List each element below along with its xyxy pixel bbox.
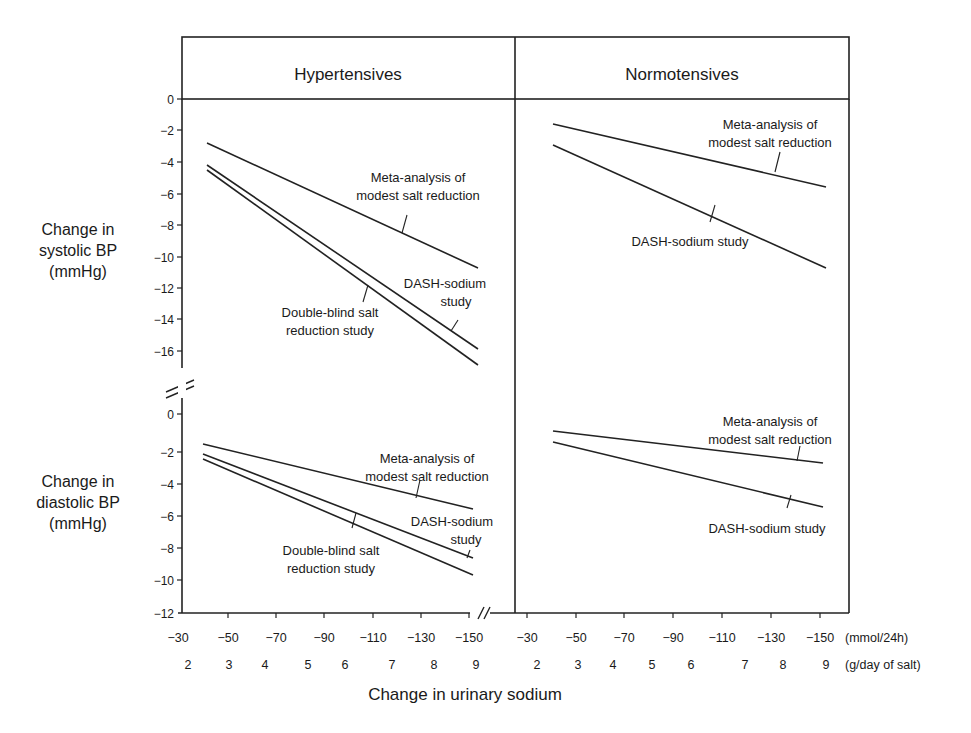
xtick-salt: 2 <box>185 658 192 672</box>
ann-norm-dia-meta-2: modest salt reduction <box>708 432 832 447</box>
xtick-salt: 9 <box>473 658 480 672</box>
xtick-salt: 3 <box>575 658 582 672</box>
ann-htn-sys-meta-1: Meta-analysis of <box>371 170 466 185</box>
ann-htn-dia-meta-2: modest salt reduction <box>365 469 489 484</box>
xtick-salt: 4 <box>610 658 617 672</box>
xtick-mmol: −50 <box>565 631 586 645</box>
ytick: −16 <box>154 345 175 359</box>
xtick-mmol: −130 <box>407 631 435 645</box>
xtick-mmol: −150 <box>806 631 834 645</box>
ylabel-diastolic-2: diastolic BP <box>36 494 120 511</box>
ytick: −2 <box>160 124 174 138</box>
ann-htn-sys-db-2: reduction study <box>286 323 375 338</box>
xtick-mmol: −70 <box>265 631 286 645</box>
xtick-salt: 7 <box>742 658 749 672</box>
xtick-salt: 4 <box>262 658 269 672</box>
ann-norm-sys-dash: DASH-sodium study <box>631 234 749 249</box>
axis-break-icon <box>166 380 490 619</box>
xtick-salt: 5 <box>305 658 312 672</box>
ann-htn-sys-dash-1: DASH-sodium <box>404 276 486 291</box>
xtick-mmol: −130 <box>757 631 785 645</box>
xtick-mmol: −110 <box>708 631 735 645</box>
ann-norm-dia-dash: DASH-sodium study <box>708 521 826 536</box>
ytick: −14 <box>154 313 175 327</box>
ylabel-systolic-1: Change in <box>42 221 115 238</box>
ytick: 0 <box>167 93 174 107</box>
line-norm-sys-meta <box>553 124 826 187</box>
ann-htn-sys-dash-2: study <box>440 294 472 309</box>
xtick-mmol: −90 <box>662 631 683 645</box>
bp-sodium-chart: Hypertensives Normotensives Change in sy… <box>0 0 971 733</box>
ylabel-systolic-3: (mmHg) <box>49 263 107 280</box>
ytick: −8 <box>160 542 174 556</box>
ytick: −8 <box>160 219 174 233</box>
xtick-mmol: −90 <box>313 631 334 645</box>
ytick: −10 <box>154 574 175 588</box>
ann-htn-dia-db-1: Double-blind salt <box>283 543 380 558</box>
ylabel-diastolic-3: (mmHg) <box>49 515 107 532</box>
xtick-mmol: −30 <box>516 631 537 645</box>
ann-htn-dia-dash-2: study <box>450 532 482 547</box>
ylabel-diastolic-1: Change in <box>42 473 115 490</box>
xtick-mmol: −110 <box>359 631 386 645</box>
xtick-salt: 6 <box>688 658 695 672</box>
xtick-salt: 9 <box>823 658 830 672</box>
xunit-mmol: (mmol/24h) <box>845 631 908 645</box>
ytick: −12 <box>154 607 175 621</box>
xtick-salt: 6 <box>342 658 349 672</box>
ann-htn-sys-db-1: Double-blind salt <box>282 305 379 320</box>
xtick-mmol: −30 <box>167 631 188 645</box>
ytick: 0 <box>167 408 174 422</box>
ytick: −6 <box>160 510 174 524</box>
ytick: −4 <box>160 478 174 492</box>
ann-htn-dia-dash-1: DASH-sodium <box>411 514 493 529</box>
xtick-mmol: −50 <box>217 631 238 645</box>
ytick: −10 <box>154 251 175 265</box>
xtick-mmol: −150 <box>455 631 483 645</box>
xtick-salt: 8 <box>431 658 438 672</box>
ann-norm-sys-meta-1: Meta-analysis of <box>723 117 818 132</box>
xtick-mmol: −70 <box>613 631 634 645</box>
line-htn-sys-meta <box>207 143 478 268</box>
xtick-salt: 2 <box>534 658 541 672</box>
xlabel: Change in urinary sodium <box>368 685 562 704</box>
ytick: −12 <box>154 282 175 296</box>
xtick-salt: 7 <box>389 658 396 672</box>
ytick: −2 <box>160 446 174 460</box>
xtick-salt: 5 <box>649 658 656 672</box>
ytick: −6 <box>160 188 174 202</box>
ann-norm-sys-meta-2: modest salt reduction <box>708 135 832 150</box>
panel-title-normotensives: Normotensives <box>625 65 738 84</box>
xtick-salt: 3 <box>226 658 233 672</box>
panel-title-hypertensives: Hypertensives <box>294 65 402 84</box>
ann-htn-dia-meta-1: Meta-analysis of <box>380 451 475 466</box>
ylabel-systolic-2: systolic BP <box>39 242 117 259</box>
ann-norm-dia-meta-1: Meta-analysis of <box>723 414 818 429</box>
xtick-salt: 8 <box>780 658 787 672</box>
ytick: −4 <box>160 156 174 170</box>
xunit-salt: (g/day of salt) <box>845 658 921 672</box>
ann-htn-sys-meta-2: modest salt reduction <box>356 188 480 203</box>
line-norm-sys-dash <box>553 145 826 268</box>
ann-htn-dia-db-2: reduction study <box>287 561 376 576</box>
line-norm-dia-dash <box>553 442 823 507</box>
